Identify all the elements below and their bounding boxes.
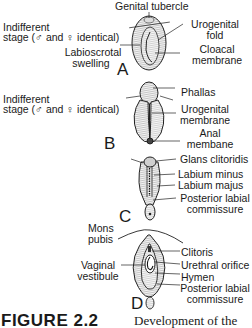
label-posterior-commissure-c-2: commissure: [178, 204, 252, 215]
stage-note-a-line2: stage (♂ and ♀ identical): [3, 32, 119, 43]
stage-note-b-line2: stage (♂ and ♀ identical): [3, 104, 119, 115]
panel-a-drawing: [120, 12, 183, 70]
panel-d-drawing: [118, 230, 183, 309]
label-phallas: Phallas: [181, 87, 215, 98]
label-vaginal-vestibule-2: vestibule: [72, 271, 124, 282]
label-glans-clitoridis: Glans clitoridis: [180, 154, 248, 165]
caption-label: FIGURE 2.2: [1, 311, 99, 328]
stage-letter-c: C: [119, 207, 131, 227]
figure-caption: FIGURE 2.2 Development of the: [0, 311, 252, 328]
panel-c-drawing: [131, 157, 176, 220]
label-mons-pubis-2: pubis: [88, 234, 113, 245]
caption-text: Development of the: [134, 313, 237, 328]
stage-letter-a: A: [117, 60, 128, 80]
label-urogenital-fold-2: fold: [185, 30, 245, 41]
label-labium-majus: Labium majus: [178, 180, 243, 191]
label-urethral-orifice: Urethral orifice: [181, 260, 249, 271]
label-urogenital-membrane-2: membrane: [178, 115, 232, 126]
label-labioscrotal-2: swelling: [66, 58, 116, 69]
label-posterior-commissure-d-2: commissure: [178, 294, 252, 305]
label-clitoris: Clitoris: [181, 247, 213, 258]
label-genital-tubercle: Genital tubercle: [115, 1, 189, 12]
stage-letter-b: B: [104, 134, 115, 154]
label-anal-2: membane: [183, 139, 237, 150]
panel-b-drawing: [126, 82, 180, 144]
label-cloacal-2: membrane: [186, 55, 248, 66]
